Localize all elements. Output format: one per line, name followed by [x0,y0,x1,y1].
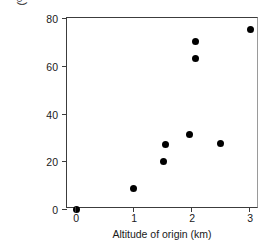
y-tick: 0 [62,209,67,210]
y-tick-label: 0 [52,205,58,216]
data-point [160,158,167,165]
data-point [192,55,199,62]
x-axis-title: Altitude of origin (km) [66,228,258,240]
data-point [192,38,199,45]
x-tick: 0 [75,207,76,212]
x-tick-label: 1 [131,213,137,224]
data-point [162,141,169,148]
y-tick: 80 [62,18,67,19]
y-tick: 20 [62,161,67,162]
data-point [217,140,224,147]
x-tick-label: 2 [189,213,195,224]
x-tick-label: 0 [73,213,79,224]
y-tick: 40 [62,114,67,115]
x-tick: 1 [133,207,134,212]
data-point [186,131,193,138]
data-point [130,185,137,192]
x-tick: 3 [249,207,250,212]
plot-area: 020406080 0123 [66,17,258,208]
data-point [247,26,254,33]
y-tick-label: 80 [46,14,58,25]
y-tick-label: 40 [46,109,58,120]
x-tick: 2 [191,207,192,212]
x-tick-label: 3 [247,213,253,224]
y-tick-label: 60 [46,62,58,73]
y-axis-title: Chilling resistance (% surviving seedlin… [0,0,30,47]
scatter-plot-figure: 020406080 0123 Chilling resistance (% su… [0,0,274,250]
y-tick: 60 [62,66,67,67]
y-axis-title-line-2: (% surviving seedlings) [15,0,28,5]
y-tick-label: 20 [46,157,58,168]
